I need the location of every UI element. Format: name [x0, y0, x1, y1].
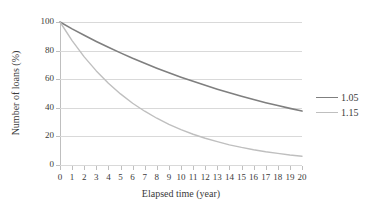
x-axis-tick — [181, 166, 182, 170]
legend: 1.051.15 — [316, 90, 359, 120]
y-axis-tick-label: 60 — [26, 74, 54, 83]
x-axis-tick — [290, 166, 291, 170]
x-axis-tick — [278, 166, 279, 170]
x-axis-tick — [108, 166, 109, 170]
x-axis-tick — [193, 166, 194, 170]
x-axis-tick — [217, 166, 218, 170]
x-axis-tick — [121, 166, 122, 170]
line-chart: 020406080100 012345678910111213141516171… — [0, 0, 381, 210]
x-axis-tick — [205, 166, 206, 170]
series-line-1-05 — [60, 22, 302, 111]
x-axis-title: Elapsed time (year) — [60, 188, 302, 200]
y-axis-tick-label: 0 — [26, 160, 54, 169]
y-axis-tick-label: 80 — [26, 46, 54, 55]
x-axis-tick — [60, 166, 61, 170]
plot-area — [60, 22, 302, 165]
y-axis-title: Number of loans (%) — [10, 28, 22, 158]
y-axis-tick-label: 40 — [26, 103, 54, 112]
x-axis-tick — [157, 166, 158, 170]
x-axis-tick — [133, 166, 134, 170]
x-axis-tick — [145, 166, 146, 170]
legend-item-label: 1.15 — [341, 107, 359, 119]
y-axis-tick-label: 100 — [26, 17, 54, 26]
legend-item[interactable]: 1.05 — [316, 90, 359, 105]
x-axis-tick-label: 20 — [295, 172, 309, 182]
x-axis-tick — [169, 166, 170, 170]
legend-item-label: 1.05 — [341, 92, 359, 104]
x-axis-tick — [229, 166, 230, 170]
y-axis-tick-label: 20 — [26, 131, 54, 140]
x-axis-tick — [84, 166, 85, 170]
x-axis-tick — [242, 166, 243, 170]
x-axis-tick — [72, 166, 73, 170]
legend-swatch-icon — [316, 112, 338, 113]
legend-swatch-icon — [316, 97, 338, 98]
series-lines — [60, 22, 302, 165]
x-axis-tick — [266, 166, 267, 170]
legend-item[interactable]: 1.15 — [316, 105, 359, 120]
x-axis-tick — [302, 166, 303, 170]
x-axis-tick — [254, 166, 255, 170]
x-axis-tick — [96, 166, 97, 170]
